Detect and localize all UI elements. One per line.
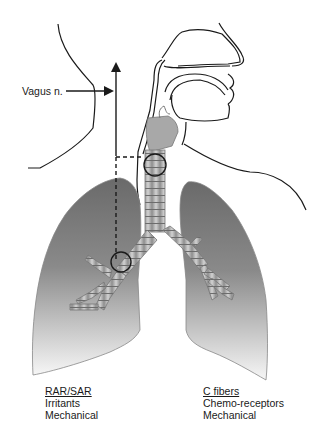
vagus-nerve-label: Vagus n.: [22, 85, 63, 97]
diagram-canvas: [0, 0, 325, 431]
rar-sar-line-mechanical: Mechanical: [45, 409, 98, 421]
c-fibers-line-mechanical: Mechanical: [203, 409, 256, 421]
larynx: [146, 116, 178, 152]
rar-sar-line-irritants: Irritants: [45, 397, 80, 409]
head-profile: [162, 23, 306, 210]
vagus-label-arrowhead: [104, 86, 114, 96]
rar-sar-title: RAR/SAR: [45, 385, 92, 397]
vagus-up-arrowhead: [111, 62, 121, 72]
c-fibers-line-chemoreceptors: Chemo-receptors: [203, 397, 284, 409]
trachea: [145, 150, 165, 232]
c-fibers-title: C fibers: [203, 385, 239, 397]
respiratory-diagram: Vagus n. RAR/SAR Irritants Mechanical C …: [0, 0, 325, 431]
